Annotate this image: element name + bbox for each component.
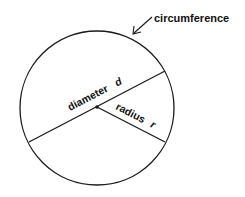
radius-label: radius — [114, 100, 148, 125]
circumference-label: circumference — [154, 12, 229, 24]
center-point — [95, 105, 99, 109]
circle-diagram: circumference diameter d radius r — [0, 0, 245, 197]
circumference-arrow — [134, 17, 152, 33]
diameter-label: diameter — [65, 82, 109, 113]
diameter-symbol: d — [112, 74, 124, 88]
radius-symbol: r — [149, 118, 159, 131]
